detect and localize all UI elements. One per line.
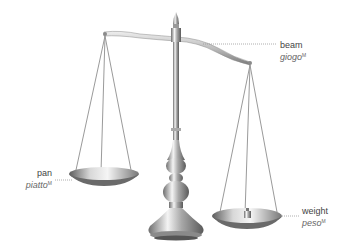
label-pan-translation: piattoM [22,178,52,190]
label-pan-term: pan [22,168,52,178]
label-weight: weight pesoM [302,206,328,228]
left-pan-chains [76,36,131,172]
label-beam: beam giogoM [280,40,306,62]
column [148,12,203,241]
right-pan-chains [220,65,277,214]
balance-scale-illustration [0,0,344,251]
label-weight-translation: pesoM [302,216,328,228]
label-pan: pan piattoM [22,168,52,190]
pan-with-weight [212,208,282,229]
pan [69,167,139,186]
label-weight-term: weight [302,206,328,216]
label-beam-term: beam [280,40,306,50]
label-beam-translation: giogoM [280,50,306,62]
